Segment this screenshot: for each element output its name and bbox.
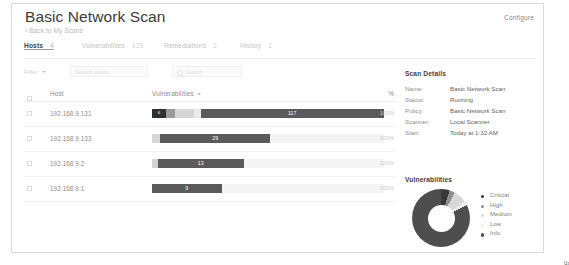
bar-segment-value: 117: [201, 110, 384, 116]
filter-hosts-input[interactable]: Search Hosts: [70, 66, 148, 77]
tab-remediations[interactable]: Remediations2: [164, 42, 217, 49]
row-percent: 100%: [380, 160, 394, 166]
scan-detail-key: Scanner:: [405, 118, 430, 125]
bar-segment-critical: 6: [152, 109, 166, 118]
scan-details-list: Name:Basic Network ScanStatus:RunningPol…: [405, 85, 535, 140]
tab-history[interactable]: History1: [240, 42, 272, 49]
table-row[interactable]: 192.168.9.213100%: [24, 152, 396, 177]
column-header-vulnerabilities-label: Vulnerabilities: [152, 90, 194, 97]
vulnerabilities-chart-block: Vulnerabilities CriticalHighMediumLowInf…: [405, 176, 545, 251]
row-checkbox[interactable]: [27, 111, 32, 116]
vulnerability-bar: 29: [152, 134, 384, 143]
scan-detail-key: Name:: [405, 85, 423, 92]
tab-label: Remediations: [164, 42, 206, 49]
filter-dropdown[interactable]: Filter: [24, 68, 46, 75]
tab-label: Vulnerabilities: [82, 42, 125, 49]
bar-segment-medium: [175, 109, 194, 118]
search-placeholder: Search: [185, 69, 203, 75]
scan-details-panel: Scan Details Name:Basic Network ScanStat…: [405, 70, 535, 140]
scan-detail-value: Basic Network Scan: [450, 85, 505, 92]
vulnerability-bar: 9: [152, 184, 384, 193]
host-address[interactable]: 192.168.9.1: [50, 185, 84, 192]
scan-detail-value: Basic Network Scan: [450, 107, 505, 114]
page-header: Basic Network Scan ‹ Back to My Scans: [25, 8, 166, 34]
scan-detail-key: Start:: [405, 129, 420, 136]
legend-color-dot: [481, 233, 484, 236]
search-input[interactable]: Search: [172, 66, 242, 77]
bar-segment-medium: [152, 134, 160, 143]
chevron-down-icon: [42, 71, 46, 73]
scan-detail-value: Local Scanner: [450, 118, 490, 125]
page-title: Basic Network Scan: [25, 8, 166, 25]
table-header-row: Host Vulnerabilities %: [24, 87, 396, 102]
bar-segment-low: [194, 109, 201, 118]
legend-label: Info: [490, 230, 500, 236]
donut-hole: [428, 205, 455, 232]
filter-hosts-placeholder: Search Hosts: [75, 69, 109, 75]
vulnerability-bar: 6117: [152, 109, 384, 118]
tab-hosts[interactable]: Hosts4: [24, 42, 54, 49]
scan-detail-row: Policy:Basic Network Scan: [405, 107, 535, 118]
legend-color-dot: [481, 195, 484, 198]
row-checkbox[interactable]: [27, 186, 32, 191]
hosts-table: Host Vulnerabilities % 192.168.9.1316117…: [24, 87, 396, 202]
row-percent: 100%: [380, 185, 394, 191]
table-row[interactable]: 192.168.9.1316117100%: [24, 102, 396, 127]
legend-color-dot: [481, 214, 484, 217]
vulnerability-donut-chart: [412, 189, 470, 247]
tab-count: 125: [132, 42, 143, 49]
search-icon: [177, 70, 183, 76]
scan-detail-row: Status:Running: [405, 96, 535, 107]
row-percent: 100%: [380, 135, 394, 141]
legend-color-dot: [481, 224, 484, 227]
scan-detail-row: Scanner:Local Scanner: [405, 118, 535, 129]
legend-label: Critical: [490, 192, 509, 198]
source-watermark: Source: Tenable: [561, 261, 569, 265]
legend-label: Medium: [490, 211, 512, 217]
bar-segment-info: 117: [201, 109, 384, 118]
filter-label: Filter: [24, 68, 38, 75]
vulnerabilities-heading: Vulnerabilities: [405, 176, 545, 183]
scan-detail-row: Name:Basic Network Scan: [405, 85, 535, 96]
scan-detail-value: Today at 1:32 AM: [450, 129, 498, 136]
tab-label: History: [240, 42, 262, 49]
row-checkbox[interactable]: [27, 136, 32, 141]
scan-detail-value: Running: [450, 96, 473, 103]
bar-segment-value: 29: [160, 135, 270, 141]
bar-segment-info: 29: [160, 134, 270, 143]
scan-detail-key: Policy:: [405, 107, 423, 114]
configure-button[interactable]: Configure: [504, 14, 534, 21]
bar-segment-info: 13: [158, 159, 244, 168]
table-row[interactable]: 192.168.9.13329100%: [24, 127, 396, 152]
sort-descending-icon: [197, 93, 201, 95]
legend-label: High: [490, 202, 503, 208]
bar-segment-high: [166, 109, 175, 118]
host-address[interactable]: 192.168.9.131: [50, 110, 92, 117]
scan-detail-key: Status:: [405, 96, 424, 103]
tab-count: 4: [50, 42, 54, 49]
bar-segment-value: 9: [152, 185, 222, 191]
vulnerability-bar: 13: [152, 159, 384, 168]
host-address[interactable]: 192.168.9.133: [50, 135, 92, 142]
scan-details-heading: Scan Details: [405, 70, 535, 77]
row-checkbox[interactable]: [27, 161, 32, 166]
tab-count: 2: [213, 42, 217, 49]
tab-count: 1: [269, 42, 273, 49]
screenshot-frame: Basic Network Scan ‹ Back to My Scans Co…: [11, 3, 544, 253]
row-percent: 100%: [380, 110, 394, 116]
select-all-checkbox[interactable]: [27, 96, 32, 101]
bar-segment-value: 6: [152, 110, 166, 115]
bar-segment-info: 9: [152, 184, 222, 193]
tab-vulnerabilities[interactable]: Vulnerabilities125: [82, 42, 144, 49]
host-address[interactable]: 192.168.9.2: [50, 160, 84, 167]
column-header-percent: %: [388, 90, 394, 97]
column-header-vulnerabilities[interactable]: Vulnerabilities: [152, 90, 201, 97]
column-header-host[interactable]: Host: [50, 90, 64, 97]
table-row[interactable]: 192.168.9.19100%: [24, 177, 396, 202]
back-to-my-scans-link[interactable]: ‹ Back to My Scans: [25, 27, 166, 34]
scan-detail-row: Start:Today at 1:32 AM: [405, 129, 535, 140]
legend-label: Low: [490, 221, 501, 227]
legend-color-dot: [481, 205, 484, 208]
bar-segment-value: 13: [158, 160, 244, 166]
tab-bar: Hosts4Vulnerabilities125Remediations2His…: [24, 42, 535, 59]
